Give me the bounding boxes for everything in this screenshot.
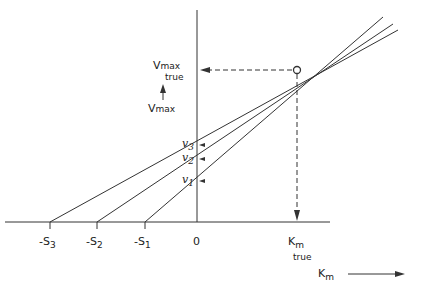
plot-canvas bbox=[0, 0, 423, 293]
neg-s1-label: -S1 bbox=[134, 236, 151, 250]
line-s3-v3 bbox=[50, 30, 398, 222]
v2-label: v2 bbox=[182, 152, 194, 166]
arrow-up-icon bbox=[160, 84, 166, 93]
origin-label: 0 bbox=[193, 236, 200, 247]
line-s1-v1 bbox=[145, 17, 383, 222]
vmax-true-text: true bbox=[165, 73, 183, 82]
km-true-label: Km bbox=[288, 236, 304, 250]
direct-linear-plot: Vmax true Vmax v3 v2 v1 -S3 -S2 -S1 0 Km… bbox=[0, 0, 423, 293]
arrow-left-icon bbox=[200, 67, 210, 73]
neg-s2-label: -S2 bbox=[86, 236, 103, 250]
v1-label: v1 bbox=[182, 174, 194, 188]
x-axis-label: Km bbox=[318, 268, 334, 282]
vmax-true-label: Vmax bbox=[153, 60, 180, 71]
intersection-point bbox=[294, 67, 301, 74]
arrow-right-icon bbox=[395, 271, 405, 277]
neg-s3-label: -S3 bbox=[39, 236, 56, 250]
line-s2-v2 bbox=[97, 24, 393, 222]
y-axis-label: Vmax bbox=[148, 103, 175, 114]
km-true-text: true bbox=[293, 253, 311, 262]
arrow-down-icon bbox=[294, 210, 300, 221]
